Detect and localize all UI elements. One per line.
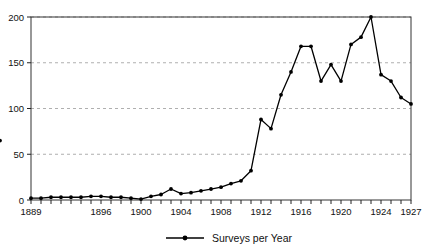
x-axis-tick-labels: 1889189619001904190819121916192019241927 [20,206,421,217]
y-tick-label: 50 [13,149,24,160]
x-tick-label: 1927 [400,206,421,217]
data-point-marker [259,118,263,122]
data-point-marker [239,179,243,183]
y-axis-tick-labels: 050100150200 [8,12,24,206]
data-point-marker [149,194,153,198]
legend-marker-icon [183,236,188,241]
data-point-marker [189,191,193,195]
y-tick-label: 100 [8,103,24,114]
data-point-marker [169,187,173,191]
data-point-marker [319,79,323,83]
y-tick-label: 200 [8,12,24,23]
data-point-marker [109,195,113,199]
x-tick-label: 1889 [20,206,41,217]
x-tick-label: 1908 [210,206,231,217]
data-point-marker [179,192,183,196]
x-tick-label: 1912 [250,206,271,217]
data-point-marker [129,196,133,200]
y-tick-label: 150 [8,57,24,68]
x-tick-label: 1924 [370,206,391,217]
data-point-marker [409,102,413,106]
data-point-marker [219,185,223,189]
data-point-marker [379,73,383,77]
data-point-marker [269,127,273,131]
data-point-marker [359,35,363,39]
x-tick-label: 1904 [170,206,191,217]
data-point-marker [229,182,233,186]
x-tick-label: 1916 [290,206,311,217]
data-point-marker [69,195,73,199]
data-point-marker [349,43,353,47]
data-point-marker [399,96,403,100]
data-point-marker [0,139,2,143]
data-point-marker [199,189,203,193]
legend-label: Surveys per Year [212,232,292,244]
data-point-marker [39,196,43,200]
data-point-marker [299,44,303,48]
chart-figure: 050100150200 188918961900190419081912191… [0,0,422,247]
data-point-marker [119,195,123,199]
data-point-marker [139,197,143,201]
data-point-marker [369,15,373,19]
x-tick-label: 1920 [330,206,351,217]
data-point-marker [59,195,63,199]
data-point-marker [249,169,253,173]
data-point-marker [279,93,283,97]
x-tick-label: 1900 [130,206,151,217]
data-point-marker [89,194,93,198]
x-tick-label: 1896 [90,206,111,217]
data-point-marker [209,187,213,191]
data-point-marker [49,195,53,199]
data-point-marker [339,79,343,83]
data-point-marker [159,193,163,197]
data-point-marker [79,195,83,199]
y-tick-label: 0 [19,195,24,206]
chart-legend: Surveys per Year [166,232,292,244]
data-point-marker [29,196,33,200]
data-point-marker [99,194,103,198]
y-axis-ticks [27,17,31,200]
data-point-marker [289,70,293,74]
data-point-marker [329,63,333,67]
data-point-marker [309,44,313,48]
data-series-line [0,15,413,201]
series-line [31,17,411,199]
grid-lines [31,17,411,154]
data-point-marker [389,79,393,83]
x-axis-ticks [31,200,411,204]
